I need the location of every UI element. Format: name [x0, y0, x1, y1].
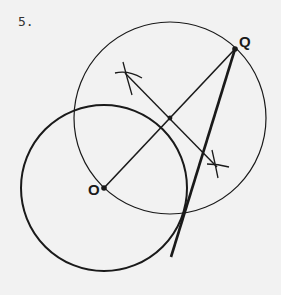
construction-arc-lower-1 — [207, 164, 229, 167]
tangent-line — [171, 49, 235, 257]
point-Q-label: Q — [239, 33, 251, 50]
point-Q — [232, 46, 238, 52]
point-O — [101, 185, 107, 191]
point-O-label: O — [88, 181, 100, 198]
problem-number: 5. — [18, 14, 34, 29]
midpoint-M — [168, 116, 173, 121]
